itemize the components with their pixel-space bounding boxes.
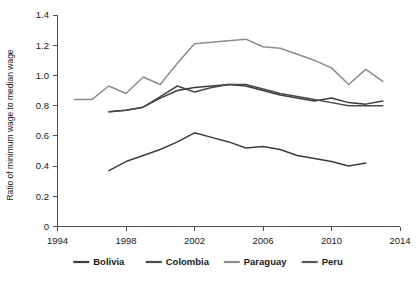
legend-label-bolivia: Bolivia: [93, 256, 125, 267]
y-axis-title-group: Ratio of minimum wage to median wage: [5, 49, 15, 200]
x-tick-label: 2014: [389, 235, 410, 246]
y-tick-label: 1.0: [36, 70, 49, 81]
x-tick-label: 1998: [115, 235, 136, 246]
y-axis-title: Ratio of minimum wage to median wage: [5, 49, 15, 200]
series-line-paraguay: [75, 39, 383, 99]
legend-label-peru: Peru: [322, 256, 343, 267]
series-line-bolivia: [109, 84, 383, 111]
y-axis-ticks: 00.20.40.60.81.01.21.4: [36, 9, 58, 232]
x-axis-ticks: 199419982002200620102014: [47, 227, 411, 247]
y-tick-label: 1.2: [36, 40, 49, 51]
line-chart: Ratio of minimum wage to median wage 00.…: [0, 0, 417, 286]
chart-canvas: Ratio of minimum wage to median wage 00.…: [0, 0, 417, 286]
y-tick-label: 0.8: [36, 100, 49, 111]
y-tick-label: 0.2: [36, 191, 49, 202]
x-tick-label: 2002: [184, 235, 205, 246]
y-tick-label: 0: [44, 221, 49, 232]
series-lines: [75, 39, 383, 170]
x-tick-label: 1994: [47, 235, 68, 246]
legend-label-paraguay: Paraguay: [244, 256, 287, 267]
chart-legend: BoliviaColombiaParaguayPeru: [73, 256, 343, 267]
y-tick-label: 0.4: [36, 160, 49, 171]
y-tick-label: 1.4: [36, 9, 49, 20]
x-tick-label: 2010: [321, 235, 342, 246]
series-line-peru: [109, 133, 366, 171]
x-tick-label: 2006: [252, 235, 273, 246]
series-line-colombia: [109, 84, 383, 111]
y-tick-label: 0.6: [36, 130, 49, 141]
legend-label-colombia: Colombia: [166, 256, 210, 267]
